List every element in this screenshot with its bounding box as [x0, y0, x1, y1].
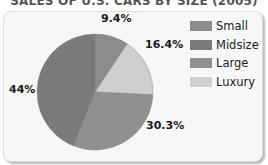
- legend-item-small: Small: [190, 17, 259, 36]
- legend-label: Small: [216, 19, 248, 33]
- label-midsize: 44%: [9, 83, 35, 96]
- label-luxury: 16.4%: [145, 38, 183, 51]
- legend-label: Midsize: [216, 38, 259, 52]
- legend-item-luxury: Luxury: [190, 73, 259, 92]
- swatch-midsize: [190, 40, 212, 50]
- legend: Small Midsize Large Luxury: [190, 17, 259, 91]
- swatch-small: [190, 21, 212, 31]
- label-small: 9.4%: [101, 12, 132, 25]
- legend-item-large: Large: [190, 54, 259, 73]
- legend-label: Large: [216, 56, 248, 70]
- legend-item-midsize: Midsize: [190, 36, 259, 55]
- swatch-large: [190, 58, 212, 68]
- swatch-luxury: [190, 77, 212, 87]
- legend-label: Luxury: [216, 75, 255, 89]
- label-large: 30.3%: [146, 119, 184, 132]
